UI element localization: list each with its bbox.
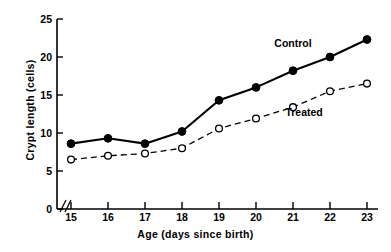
y-tick-label-5: 5 (46, 165, 52, 177)
y-tick-label-10: 10 (40, 127, 52, 139)
data-point (142, 150, 149, 157)
series-line-treated (71, 84, 367, 160)
x-axis-ticks (71, 202, 367, 209)
data-point (68, 156, 75, 163)
data-point (141, 140, 149, 148)
x-tick-label-15: 15 (65, 211, 77, 223)
y-tick-label-25: 25 (40, 13, 52, 25)
crypt-length-line-chart: 0 5 10 15 20 25 15 16 17 18 19 20 21 (0, 0, 391, 252)
x-tick-label-21: 21 (287, 211, 299, 223)
data-point (215, 96, 223, 104)
data-point (178, 128, 186, 136)
data-point (104, 134, 112, 142)
data-point (253, 115, 260, 122)
data-point (105, 152, 112, 159)
data-point (179, 145, 186, 152)
data-point (67, 140, 75, 148)
x-tick-label-20: 20 (250, 211, 262, 223)
x-tick-label-16: 16 (102, 211, 114, 223)
y-tick-label-0: 0 (46, 203, 52, 215)
y-tick-label-20: 20 (40, 51, 52, 63)
y-tick-label-15: 15 (40, 89, 52, 101)
x-axis-title: Age (days since birth) (0, 228, 391, 240)
data-point (216, 125, 223, 132)
data-point (252, 84, 260, 92)
x-tick-label-19: 19 (213, 211, 225, 223)
x-tick-label-23: 23 (361, 211, 373, 223)
x-tick-label-18: 18 (176, 211, 188, 223)
x-tick-label-22: 22 (324, 211, 336, 223)
data-point (289, 67, 297, 75)
data-point (327, 88, 334, 95)
series-annotation-treated: Treated (285, 106, 322, 118)
data-point (326, 53, 334, 61)
series-markers-treated (68, 80, 371, 163)
series-annotation-control: Control (274, 37, 311, 49)
chart-plot-area: 0 5 10 15 20 25 15 16 17 18 19 20 21 (0, 0, 391, 252)
y-axis-title: Crypt length (cells) (24, 20, 36, 200)
data-point (363, 36, 371, 44)
y-axis-ticks (57, 19, 63, 209)
x-tick-label-17: 17 (139, 211, 151, 223)
data-point (364, 80, 371, 87)
